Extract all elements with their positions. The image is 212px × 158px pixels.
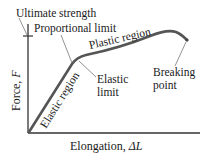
elastic-limit-leader xyxy=(79,61,96,77)
breaking-point-label-line2: point xyxy=(153,79,177,92)
elastic-limit-label-line2: limit xyxy=(97,86,120,98)
force-elongation-diagram: Ultimate strength Proportional limit Pla… xyxy=(0,0,212,158)
proportional-limit-leader xyxy=(61,35,72,63)
ultimate-strength-label: Ultimate strength xyxy=(16,7,96,20)
x-axis-label: Elongation, ΔL xyxy=(70,139,143,153)
elastic-limit-label-line1: Elastic xyxy=(97,73,128,85)
y-axis-label-text: Force, xyxy=(9,78,23,111)
y-axis-variable: F xyxy=(9,70,23,79)
elastic-region-label: Elastic region xyxy=(38,70,83,131)
breaking-point-leader xyxy=(175,42,186,66)
breaking-point-marker xyxy=(185,38,188,41)
breaking-point-label-line1: Breaking xyxy=(153,66,195,79)
ultimate-strength-leader xyxy=(19,18,27,35)
x-axis-variable: ΔL xyxy=(128,139,143,153)
proportional-limit-label: Proportional limit xyxy=(34,22,117,35)
y-axis-label: Force, F xyxy=(9,70,23,111)
x-axis-label-text: Elongation, xyxy=(70,139,129,153)
